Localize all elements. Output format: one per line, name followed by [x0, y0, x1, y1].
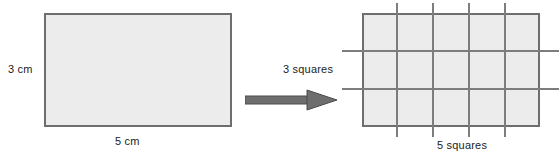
width-label-cm: 5 cm: [115, 136, 140, 147]
grid-line-vertical: [468, 3, 470, 137]
arrow-right-icon: [245, 88, 337, 112]
grid-line-vertical: [504, 3, 506, 137]
grid-line-vertical: [396, 3, 398, 137]
height-label-cm: 3 cm: [8, 64, 33, 75]
grid-line-horizontal: [342, 88, 559, 90]
transform-arrow: [245, 88, 337, 112]
grid-rectangle-body: [362, 13, 540, 127]
rows-label-squares: 3 squares: [283, 64, 333, 75]
grid-line-vertical: [432, 3, 434, 137]
diagram-canvas: 3 cm 5 cm 3 squares 5 squares: [0, 0, 559, 160]
plain-rectangle: [44, 13, 232, 127]
grid-line-horizontal: [342, 50, 559, 52]
gridded-rectangle: [362, 13, 540, 127]
columns-label-squares: 5 squares: [437, 140, 487, 151]
